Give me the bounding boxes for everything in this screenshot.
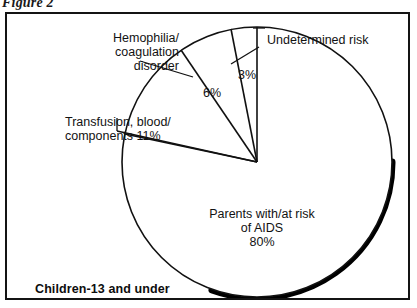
slice-label-hemophilia: Hemophilia/ coagulation disorder (59, 31, 179, 73)
chart-title: Children-13 and under (35, 282, 170, 296)
slice-label-parents-at-risk: Parents with/at risk of AIDS 80% (182, 207, 342, 249)
pie-chart-frame: Hemophilia/ coagulation disorder Undeter… (5, 12, 410, 300)
slice-value-hemophilia: 6% (203, 86, 221, 100)
figure-container: Figure 2 Hemophilia/ co (0, 0, 417, 308)
figure-caption: Figure 2 (2, 0, 54, 11)
slice-label-transfusion: Transfusion, blood/ components 11% (65, 115, 205, 143)
slice-value-undetermined: 3% (238, 68, 256, 82)
slice-label-undetermined-risk: Undetermined risk (267, 33, 368, 47)
